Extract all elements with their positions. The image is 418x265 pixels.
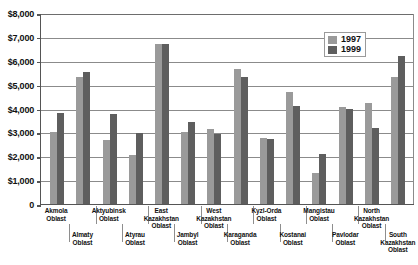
- bar-chart: 0$1,000$2,000$3,000$4,000$5,000$6,000$7,…: [0, 0, 418, 265]
- x-tick-label: AlmatyOblast: [55, 231, 110, 246]
- y-tick-label: $1,000: [8, 176, 34, 186]
- x-tick-label-line: Oblast: [291, 215, 346, 223]
- bar-group: [70, 14, 96, 204]
- x-tick-label-line: Kostanai: [265, 231, 320, 239]
- y-axis-labels: 0$1,000$2,000$3,000$4,000$5,000$6,000$7,…: [0, 0, 34, 265]
- x-tick-label-line: Oblast: [134, 222, 189, 230]
- bar-1997: [76, 77, 83, 204]
- bar-group: [149, 14, 175, 204]
- bar-group: [280, 14, 306, 204]
- x-tick-label: AtyrauOblast: [107, 231, 162, 246]
- bar-1997: [339, 107, 346, 204]
- bar-group: [96, 14, 122, 204]
- bar-group: [228, 14, 254, 204]
- x-tick-label: MangistauOblast: [291, 207, 346, 222]
- x-tick-label-line: North: [344, 207, 399, 215]
- bar-1997: [103, 140, 110, 204]
- y-tick-label: $5,000: [8, 81, 34, 91]
- y-tick-label: $2,000: [8, 152, 34, 162]
- x-tick-label-line: Kazakhstan: [186, 215, 241, 223]
- x-tick-label: SouthKazakhstanOblast: [370, 231, 418, 254]
- bar-1999: [162, 44, 169, 204]
- legend-swatch-1997: [328, 36, 337, 44]
- x-tick-label-line: Oblast: [370, 246, 418, 254]
- bar-1999: [214, 134, 221, 204]
- x-tick-label-line: Jambyl: [160, 231, 215, 239]
- bar-1997: [260, 138, 267, 204]
- y-tick-label: $4,000: [8, 105, 34, 115]
- y-tick-label: $8,000: [8, 9, 34, 19]
- x-tick-label-line: Kazakhstan: [134, 215, 189, 223]
- bar-1999: [398, 56, 405, 205]
- legend: 1997 1999: [324, 32, 366, 57]
- bar-group: [44, 14, 70, 204]
- bar-group: [123, 14, 149, 204]
- bar-1997: [155, 44, 162, 204]
- x-tick-label-line: East: [134, 207, 189, 215]
- x-tick-label-line: Oblast: [344, 222, 399, 230]
- x-tick-label-line: Oblast: [186, 222, 241, 230]
- x-tick-label-line: Oblast: [213, 239, 268, 247]
- x-tick-label-line: Oblast: [160, 239, 215, 247]
- bar-1999: [188, 122, 195, 204]
- x-tick-label-line: Oblast: [81, 215, 136, 223]
- x-tick-label: KaragandaOblast: [213, 231, 268, 246]
- bar-1999: [293, 106, 300, 204]
- bar-1999: [346, 109, 353, 204]
- x-tick-label-line: Oblast: [265, 239, 320, 247]
- x-tick-label: KostanaiOblast: [265, 231, 320, 246]
- bar-group: [201, 14, 227, 204]
- x-tick-label-line: Pavlodar: [318, 231, 373, 239]
- bar-1997: [50, 132, 57, 204]
- bar-1999: [241, 77, 248, 204]
- y-tick-label: $3,000: [8, 128, 34, 138]
- x-tick-label: PavlodarOblast: [318, 231, 373, 246]
- x-tick-label: NorthKazakhstanOblast: [344, 207, 399, 230]
- x-tick-label: AktyubinskOblast: [81, 207, 136, 222]
- bar-group: [254, 14, 280, 204]
- legend-label-1997: 1997: [341, 35, 361, 44]
- x-tick-label-line: South: [370, 231, 418, 239]
- x-tick-label-line: Aktyubinsk: [81, 207, 136, 215]
- legend-label-1999: 1999: [341, 45, 361, 54]
- x-tick-label-line: Kazakhstan: [370, 239, 418, 247]
- y-tick-label: $6,000: [8, 57, 34, 67]
- x-tick-label-line: Mangistau: [291, 207, 346, 215]
- bar-1999: [110, 114, 117, 204]
- bar-1997: [181, 132, 188, 204]
- x-tick-label-line: Oblast: [55, 239, 110, 247]
- bar-1999: [83, 72, 90, 204]
- legend-entry-1999: 1999: [328, 45, 361, 54]
- bar-1997: [234, 69, 241, 204]
- bar-group: [385, 14, 411, 204]
- x-tick-label: JambylOblast: [160, 231, 215, 246]
- bar-1997: [391, 77, 398, 204]
- bar-1997: [365, 103, 372, 204]
- bar-1999: [57, 113, 64, 204]
- x-tick-label: Kyzl-OrdaOblast: [239, 207, 294, 222]
- x-tick-label-line: Almaty: [55, 231, 110, 239]
- y-tick-label: $7,000: [8, 33, 34, 43]
- x-tick-label-line: Oblast: [239, 215, 294, 223]
- x-tick-label-line: West: [186, 207, 241, 215]
- x-axis-labels: AkmolaOblastAlmatyOblastAktyubinskOblast…: [40, 206, 414, 265]
- x-tick-label-line: Akmola: [29, 207, 84, 215]
- x-tick-label-line: Kyzl-Orda: [239, 207, 294, 215]
- x-tick-label-line: Oblast: [29, 215, 84, 223]
- bar-1997: [129, 155, 136, 204]
- bar-1997: [312, 173, 319, 204]
- x-tick-label-line: Karaganda: [213, 231, 268, 239]
- legend-entry-1997: 1997: [328, 35, 361, 44]
- bar-1997: [207, 129, 214, 204]
- bar-1999: [267, 139, 274, 204]
- bar-1999: [319, 154, 326, 204]
- bar-1999: [136, 133, 143, 204]
- x-tick-label-line: Oblast: [107, 239, 162, 247]
- x-tick-label-line: Atyrau: [107, 231, 162, 239]
- x-tick-label: AkmolaOblast: [29, 207, 84, 222]
- x-tick-label-line: Kazakhstan: [344, 215, 399, 223]
- x-tick-label: EastKazakhstanOblast: [134, 207, 189, 230]
- bar-1999: [372, 128, 379, 204]
- x-tick-label-line: Oblast: [318, 239, 373, 247]
- bar-1997: [286, 92, 293, 204]
